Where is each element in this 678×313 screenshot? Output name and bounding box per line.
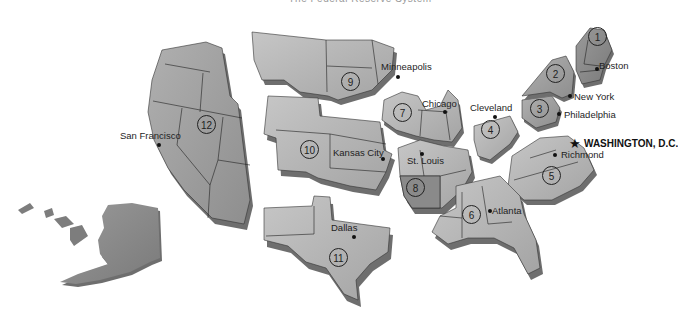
city-label-boston: Boston — [599, 60, 629, 71]
city-label-st-louis: St. Louis — [407, 155, 444, 166]
city-label-richmond: Richmond — [561, 149, 604, 160]
district-number-9: 9 — [341, 72, 360, 91]
district-number-5: 5 — [542, 166, 561, 185]
district-number-12: 12 — [197, 115, 216, 134]
city-label-chicago: Chicago — [422, 98, 457, 109]
city-label-philadelphia: Philadelphia — [564, 109, 616, 120]
district-9-shape — [252, 32, 397, 105]
city-dot-dallas — [352, 235, 356, 239]
city-dot-san-francisco — [157, 143, 161, 147]
city-label-cleveland: Cleveland — [470, 102, 512, 113]
city-label-new-york: New York — [574, 91, 614, 102]
district-number-6: 6 — [462, 205, 481, 224]
city-dot-philadelphia — [557, 112, 561, 116]
district-number-4: 4 — [481, 120, 500, 139]
district-number-7: 7 — [393, 103, 412, 122]
city-label-dallas: Dallas — [331, 222, 357, 233]
district-11-shape — [264, 196, 393, 307]
district-number-10: 10 — [300, 140, 319, 159]
city-label-atlanta: Atlanta — [492, 205, 522, 216]
city-dot-new-york — [568, 94, 572, 98]
district-number-2: 2 — [546, 64, 565, 83]
district-number-1: 1 — [588, 27, 607, 46]
capital-label-washington-dc: WASHINGTON, D.C. — [584, 138, 678, 149]
star-icon: ★ — [569, 137, 581, 150]
city-label-kansas-city: Kansas City — [333, 147, 384, 158]
district-number-8: 8 — [406, 178, 425, 197]
city-label-san-francisco: San Francisco — [120, 130, 181, 141]
city-dot-minneapolis — [396, 75, 400, 79]
city-dot-cleveland — [493, 115, 497, 119]
alaska-shape — [18, 203, 162, 287]
city-dot-chicago — [443, 110, 447, 114]
city-dot-richmond — [553, 153, 557, 157]
district-number-3: 3 — [530, 99, 549, 118]
district-number-11: 11 — [329, 248, 348, 267]
district-10-shape — [264, 96, 395, 196]
city-label-minneapolis: Minneapolis — [381, 61, 432, 72]
